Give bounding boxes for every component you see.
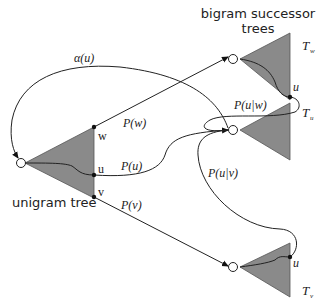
svg-text:T: T bbox=[302, 38, 310, 53]
tv-tree-triangle bbox=[240, 243, 290, 297]
unigram-leaf-w-dot bbox=[92, 125, 96, 129]
unigram-leaf-u-dot bbox=[92, 173, 96, 177]
edge-p-w bbox=[94, 57, 228, 127]
edge-alpha-backoff bbox=[11, 66, 228, 158]
tw-tree-label: T w bbox=[302, 38, 315, 55]
svg-text:w: w bbox=[310, 47, 315, 55]
bigram-title-line1: bigram successor bbox=[201, 6, 316, 21]
svg-text:v: v bbox=[310, 292, 314, 300]
edge-p-v bbox=[94, 197, 228, 266]
p-u-label: P(u) bbox=[120, 159, 142, 173]
svg-text:T: T bbox=[302, 105, 310, 120]
tu-root-node bbox=[229, 126, 238, 135]
tw-leaf-u-label: u bbox=[293, 80, 299, 94]
p-u-given-w-label: P(u|w) bbox=[233, 98, 267, 112]
bigram-title-line2: trees bbox=[242, 21, 275, 36]
tv-leaf-u-dot bbox=[288, 255, 292, 259]
unigram-tree-label: unigram tree bbox=[12, 195, 97, 210]
unigram-tree-triangle bbox=[25, 127, 94, 198]
unigram-root-node bbox=[17, 159, 26, 168]
tw-leaf-u-dot bbox=[288, 95, 292, 99]
svg-text:u: u bbox=[310, 114, 314, 122]
unigram-leaf-v-label: v bbox=[98, 185, 104, 199]
tu-tree-label: T u bbox=[302, 105, 314, 122]
p-w-label: P(w) bbox=[122, 116, 146, 130]
language-model-tree-diagram: bigram successor trees unigram tree α(u)… bbox=[0, 0, 320, 303]
tw-root-node bbox=[229, 55, 238, 64]
unigram-leaf-u-label: u bbox=[98, 162, 104, 176]
unigram-leaf-w-label: w bbox=[98, 129, 107, 143]
tv-leaf-u-label: u bbox=[293, 256, 299, 270]
tv-root-node bbox=[229, 263, 238, 272]
tw-tree-triangle bbox=[240, 33, 290, 100]
tv-tree-label: T v bbox=[302, 283, 314, 300]
alpha-label: α(u) bbox=[74, 51, 94, 65]
p-u-given-v-label: P(u|v) bbox=[207, 166, 238, 180]
p-v-label: P(v) bbox=[120, 198, 142, 212]
svg-text:T: T bbox=[302, 283, 310, 298]
